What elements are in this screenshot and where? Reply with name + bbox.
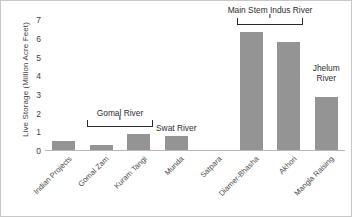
bracket-stem-icon	[119, 116, 120, 120]
y-tick-7: 7	[27, 16, 41, 25]
x-label-munda: Munda	[164, 155, 186, 177]
bracket-gomal-river	[87, 120, 153, 127]
bar-akhori	[277, 42, 300, 151]
y-tick-0: 0	[27, 147, 41, 156]
bar-diamer-bhasha	[240, 32, 263, 151]
x-axis-line	[45, 150, 345, 151]
bar-chart: Live Storage (Million Acre Feet) 0123456…	[0, 0, 352, 217]
bracket-main-stem-indus-river	[237, 18, 303, 25]
x-label-kuram-tangi: Kuram Tangi	[113, 155, 148, 190]
x-label-indian-projects: Indian Projects	[32, 155, 73, 196]
y-tick-6: 6	[27, 35, 41, 44]
annotation-jhelum-river: JhelumRiver	[305, 63, 347, 83]
x-label-akhori: Akhori	[278, 155, 299, 176]
annotation-swat-river: Swat River	[146, 123, 206, 133]
y-tick-2: 2	[27, 109, 41, 118]
plot-area: 01234567 Indian ProjectsGomal ZamKuram T…	[45, 13, 345, 151]
bar-munda	[165, 136, 188, 151]
y-tick-4: 4	[27, 72, 41, 81]
y-tick-5: 5	[27, 54, 41, 63]
bracket-stem-icon	[269, 14, 270, 18]
y-tick-3: 3	[27, 91, 41, 100]
bar-mangla-raising	[315, 97, 338, 151]
x-label-gomal-zam: Gomal Zam	[77, 155, 110, 188]
x-label-mangla-raising: Mangla Raising	[293, 155, 335, 197]
y-tick-1: 1	[27, 128, 41, 137]
x-label-diamer-bhasha: Diamer-Bhasha	[218, 155, 261, 198]
bar-kuram-tangi	[127, 134, 150, 151]
x-label-satpara: Satpara	[199, 155, 223, 179]
